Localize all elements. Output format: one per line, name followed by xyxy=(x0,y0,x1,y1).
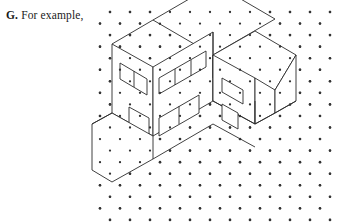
grid-dot xyxy=(319,161,321,163)
grid-dot xyxy=(169,126,171,128)
grid-dot xyxy=(139,207,141,209)
grid-dot xyxy=(299,92,301,94)
grid-dot xyxy=(129,149,131,151)
grid-dot xyxy=(209,103,211,105)
grid-dot xyxy=(179,92,181,94)
grid-dot xyxy=(289,149,291,151)
grid-dot xyxy=(309,11,311,13)
grid-dot xyxy=(189,149,191,151)
grid-dot xyxy=(149,149,151,151)
grid-dot xyxy=(139,22,141,24)
grid-dot xyxy=(249,80,251,82)
grid-dot xyxy=(149,126,151,128)
grid-dot xyxy=(229,57,231,59)
grid-dot xyxy=(269,11,271,13)
grid-dot xyxy=(269,149,271,151)
grid-dot xyxy=(199,207,201,209)
grid-dot xyxy=(209,80,211,82)
grid-dot xyxy=(229,34,231,36)
grid-dot xyxy=(279,69,281,71)
grid-dot xyxy=(279,115,281,117)
grid-dot xyxy=(269,103,271,105)
grid-dot xyxy=(279,184,281,186)
grid-dot xyxy=(309,196,311,198)
grid-dot xyxy=(169,57,171,59)
grid-dot xyxy=(309,80,311,82)
grid-dot xyxy=(319,138,321,140)
grid-dot xyxy=(109,219,111,221)
grid-dot xyxy=(309,219,311,221)
grid-dot xyxy=(239,207,241,209)
grid-dot xyxy=(309,34,311,36)
grid-dot xyxy=(99,69,101,71)
grid-dot xyxy=(299,69,301,71)
grid-dot xyxy=(329,103,331,105)
grid-dot xyxy=(269,34,271,36)
grid-dot xyxy=(159,92,161,94)
grid-dot xyxy=(329,126,331,128)
grid-dot xyxy=(259,207,261,209)
grid-dot xyxy=(159,46,161,48)
grid-dot xyxy=(229,173,231,175)
grid-dot xyxy=(229,219,231,221)
grid-dot xyxy=(109,103,111,105)
grid-dot xyxy=(299,46,301,48)
grid-dot xyxy=(299,138,301,140)
grid-dot xyxy=(109,149,111,151)
grid-dot xyxy=(269,57,271,59)
figure-page: G. For example, xyxy=(0,0,340,223)
grid-dot xyxy=(139,138,141,140)
grid-dot xyxy=(99,22,101,24)
grid-dot xyxy=(279,161,281,163)
grid-dot xyxy=(309,57,311,59)
grid-dot xyxy=(249,219,251,221)
grid-dot xyxy=(309,173,311,175)
grid-dot xyxy=(189,80,191,82)
grid-dot xyxy=(129,34,131,36)
grid-dot xyxy=(219,69,221,71)
grid-dot xyxy=(219,138,221,140)
grid-dot xyxy=(219,207,221,209)
grid-dot xyxy=(289,126,291,128)
grid-dot xyxy=(179,69,181,71)
grid-dot xyxy=(289,103,291,105)
grid-dot xyxy=(129,80,131,82)
grid-dot xyxy=(209,34,211,36)
grid-dot xyxy=(189,126,191,128)
grid-dot xyxy=(319,46,321,48)
grid-dot xyxy=(249,173,251,175)
grid-dot xyxy=(129,126,131,128)
grid-dot xyxy=(179,207,181,209)
grid-dot xyxy=(199,115,201,117)
grid-dot xyxy=(329,219,331,221)
grid-dot xyxy=(109,11,111,13)
grid-dot xyxy=(249,11,251,13)
grid-dot xyxy=(319,207,321,209)
grid-dot xyxy=(259,92,261,94)
grid-dot xyxy=(259,138,261,140)
grid-dot xyxy=(159,115,161,117)
grid-dot xyxy=(149,219,151,221)
grid-dot xyxy=(119,22,121,24)
grid-dot xyxy=(179,161,181,163)
grid-dot xyxy=(169,80,171,82)
grid-dot xyxy=(199,161,201,163)
roof-left-edge xyxy=(112,20,153,44)
grid-dot xyxy=(239,161,241,163)
grid-dot xyxy=(119,207,121,209)
grid-dot xyxy=(129,103,131,105)
grid-dot xyxy=(149,34,151,36)
grid-dot xyxy=(239,69,241,71)
grid-dot xyxy=(229,11,231,13)
isometric-drawing-figure xyxy=(0,0,340,223)
grid-dot xyxy=(299,115,301,117)
grid-dot xyxy=(149,196,151,198)
grid-dot xyxy=(319,69,321,71)
grid-dot xyxy=(109,196,111,198)
grid-dot xyxy=(289,11,291,13)
grid-dot xyxy=(179,22,181,24)
grid-dot xyxy=(329,196,331,198)
grid-dot xyxy=(239,92,241,94)
grid-dot xyxy=(99,207,101,209)
grid-dot xyxy=(319,184,321,186)
